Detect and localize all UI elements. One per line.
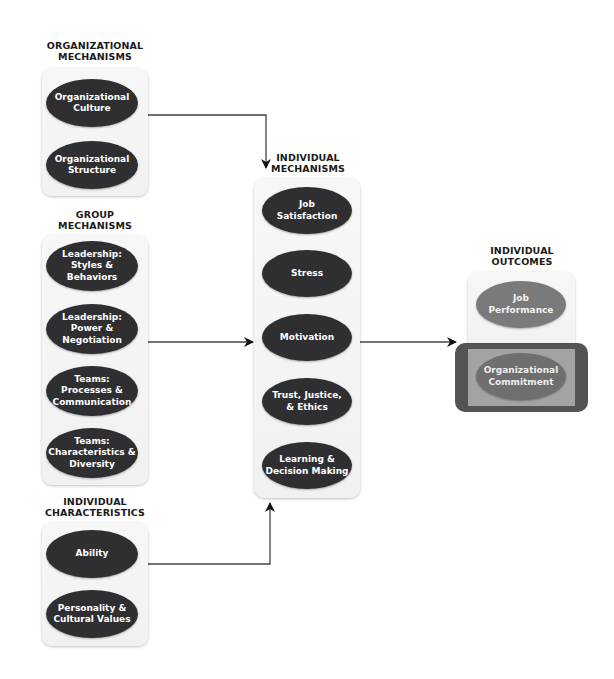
node-label: Performance: [489, 305, 554, 317]
node-label: Personality &: [53, 603, 130, 615]
node-motivation[interactable]: Motivation: [262, 314, 352, 361]
node-organizational-commitment[interactable]: OrganizationalCommitment: [476, 353, 566, 400]
node-organizational-structure[interactable]: OrganizationalStructure: [46, 141, 138, 189]
node-label: Leadership:: [62, 312, 122, 324]
heading-line: MECHANISMS: [266, 163, 350, 174]
node-label: Learning &: [265, 454, 348, 466]
node-label: Teams:: [53, 374, 132, 386]
node-label: Negotiation: [62, 335, 122, 347]
node-label: Organizational: [55, 92, 130, 104]
node-stress[interactable]: Stress: [262, 250, 352, 297]
node-ability[interactable]: Ability: [46, 530, 138, 578]
node-label: Teams:: [48, 436, 135, 448]
node-job-satisfaction[interactable]: JobSatisfaction: [262, 187, 352, 234]
heading-line: MECHANISMS: [32, 51, 158, 62]
arrow-org-to-individual: [148, 115, 266, 168]
arrow-characteristics-to-individual: [148, 503, 270, 564]
node-label: Motivation: [280, 332, 334, 344]
node-label: Behaviors: [62, 272, 122, 284]
node-organizational-culture[interactable]: OrganizationalCulture: [46, 79, 138, 127]
heading-line: CHARACTERISTICS: [30, 507, 160, 518]
node-learning-decision-making[interactable]: Learning &Decision Making: [262, 442, 352, 489]
heading-organizational-mechanisms: ORGANIZATIONAL MECHANISMS: [32, 40, 158, 62]
node-label: Ability: [76, 548, 109, 560]
node-label: Decision Making: [265, 466, 348, 478]
heading-line: MECHANISMS: [32, 220, 158, 231]
node-label: Trust, Justice,: [272, 390, 342, 402]
node-label: Processes &: [53, 385, 132, 397]
node-label: Communication: [53, 397, 132, 409]
heading-line: GROUP: [32, 209, 158, 220]
node-teams-characteristics-diversity[interactable]: Teams:Characteristics &Diversity: [46, 428, 138, 478]
heading-line: INDIVIDUAL: [30, 496, 160, 507]
heading-line: INDIVIDUAL: [480, 245, 564, 256]
node-label: Culture: [55, 103, 130, 115]
node-label: Organizational: [484, 365, 559, 377]
node-leadership-styles-behaviors[interactable]: Leadership:Styles &Behaviors: [46, 241, 138, 291]
heading-group-mechanisms: GROUP MECHANISMS: [32, 209, 158, 231]
heading-individual-characteristics: INDIVIDUAL CHARACTERISTICS: [30, 496, 160, 518]
heading-line: INDIVIDUAL: [266, 152, 350, 163]
node-label: Commitment: [484, 377, 559, 389]
heading-line: ORGANIZATIONAL: [32, 40, 158, 51]
node-leadership-power-negotiation[interactable]: Leadership:Power &Negotiation: [46, 304, 138, 354]
node-label: Diversity: [48, 459, 135, 471]
node-label: Structure: [55, 165, 130, 177]
heading-line: OUTCOMES: [480, 256, 564, 267]
node-label: Job: [277, 199, 338, 211]
node-label: Job: [489, 293, 554, 305]
node-label: Characteristics &: [48, 447, 135, 459]
node-label: & Ethics: [272, 402, 342, 414]
node-label: Satisfaction: [277, 211, 338, 223]
node-teams-processes-communication[interactable]: Teams:Processes &Communication: [46, 366, 138, 416]
node-label: Cultural Values: [53, 614, 130, 626]
node-label: Power &: [62, 323, 122, 335]
node-personality-cultural-values[interactable]: Personality &Cultural Values: [46, 590, 138, 638]
heading-individual-mechanisms: INDIVIDUAL MECHANISMS: [266, 152, 350, 174]
node-label: Styles &: [62, 260, 122, 272]
node-label: Leadership:: [62, 249, 122, 261]
node-label: Organizational: [55, 154, 130, 166]
heading-individual-outcomes: INDIVIDUAL OUTCOMES: [480, 245, 564, 267]
node-job-performance[interactable]: JobPerformance: [476, 281, 566, 328]
node-trust-justice-ethics[interactable]: Trust, Justice,& Ethics: [262, 378, 352, 425]
node-label: Stress: [291, 268, 323, 280]
